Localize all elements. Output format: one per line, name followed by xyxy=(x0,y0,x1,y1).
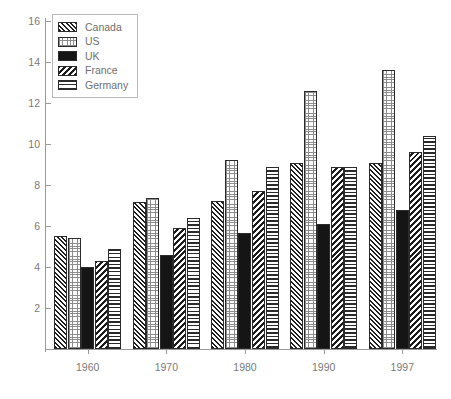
bar xyxy=(290,163,303,349)
y-tick-label: 10 xyxy=(18,139,40,149)
legend-item-label: US xyxy=(85,36,100,47)
bar xyxy=(133,202,146,349)
x-axis-line xyxy=(45,349,437,350)
x-tick-mark xyxy=(402,349,403,354)
y-tick-label: 2 xyxy=(18,303,40,313)
bar xyxy=(423,136,436,349)
x-tick-label: 1990 xyxy=(294,362,354,373)
legend-swatch-icon xyxy=(58,80,77,90)
x-tick-label: 1980 xyxy=(215,362,275,373)
bar-group xyxy=(211,21,278,349)
legend-item-france: France xyxy=(58,64,128,77)
x-tick-label: 1970 xyxy=(136,362,196,373)
bar xyxy=(68,238,81,349)
bar xyxy=(252,191,265,349)
bar xyxy=(266,167,279,349)
y-tick-label: 16 xyxy=(18,16,40,26)
y-tick-label: 12 xyxy=(18,98,40,108)
bar xyxy=(331,167,344,349)
bar xyxy=(238,233,251,349)
legend-item-uk: UK xyxy=(58,50,128,63)
y-tick-label: 6 xyxy=(18,221,40,231)
bar xyxy=(369,163,382,349)
x-tick-mark xyxy=(88,349,89,354)
x-tick-label: 1960 xyxy=(58,362,118,373)
bar xyxy=(108,249,121,349)
legend-item-us: US xyxy=(58,35,128,48)
legend-item-label: France xyxy=(85,65,118,76)
x-tick-mark xyxy=(245,349,246,354)
bar xyxy=(409,152,422,349)
bar xyxy=(382,70,395,349)
x-tick-label: 1997 xyxy=(372,362,432,373)
bar xyxy=(225,160,238,349)
bar xyxy=(160,255,173,349)
legend: CanadaUSUKFranceGermany xyxy=(52,14,138,98)
legend-item-germany: Germany xyxy=(58,79,128,92)
x-tick-mark xyxy=(166,349,167,354)
legend-swatch-icon xyxy=(58,66,77,76)
y-tick-label: 8 xyxy=(18,180,40,190)
bar-group xyxy=(290,21,357,349)
bar xyxy=(396,210,409,349)
legend-swatch-icon xyxy=(58,37,77,47)
bar xyxy=(95,261,108,349)
bar-group xyxy=(369,21,436,349)
x-tick-mark xyxy=(324,349,325,354)
bar-chart: 246810121416 19601970198019901997 Canada… xyxy=(0,0,451,399)
bar xyxy=(173,228,186,349)
bar xyxy=(187,218,200,349)
legend-item-label: Canada xyxy=(85,22,122,33)
legend-item-canada: Canada xyxy=(58,21,128,34)
bar xyxy=(211,201,224,349)
y-tick-label: 4 xyxy=(18,262,40,272)
legend-swatch-icon xyxy=(58,22,77,32)
bar xyxy=(344,167,357,349)
bar xyxy=(54,236,67,349)
y-tick-label: 14 xyxy=(18,57,40,67)
legend-item-label: Germany xyxy=(85,80,128,91)
bar xyxy=(317,224,330,349)
bar xyxy=(81,267,94,349)
bar-group xyxy=(133,21,200,349)
bar xyxy=(146,198,159,349)
legend-item-label: UK xyxy=(85,51,100,62)
legend-swatch-icon xyxy=(58,51,77,61)
bar xyxy=(304,91,317,349)
